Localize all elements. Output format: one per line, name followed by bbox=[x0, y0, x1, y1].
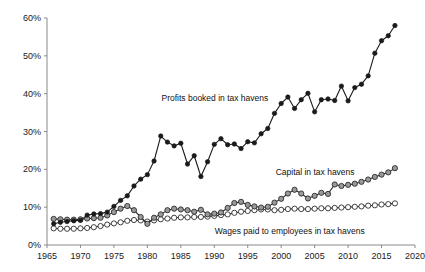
y-axis-tick-label: 30% bbox=[2, 127, 41, 137]
data-point bbox=[165, 216, 170, 221]
data-point bbox=[245, 208, 250, 213]
data-point bbox=[225, 212, 230, 217]
data-point bbox=[325, 191, 330, 196]
data-point bbox=[272, 200, 277, 205]
data-point bbox=[272, 111, 276, 115]
data-point bbox=[78, 218, 82, 222]
data-point bbox=[185, 208, 190, 213]
y-axis-tick-label: 60% bbox=[2, 13, 41, 23]
data-point bbox=[292, 206, 297, 211]
data-point bbox=[312, 206, 317, 211]
y-axis-tick-label: 40% bbox=[2, 89, 41, 99]
data-point bbox=[105, 222, 110, 227]
data-point bbox=[285, 191, 290, 196]
data-point bbox=[98, 223, 103, 228]
data-point bbox=[232, 142, 236, 146]
data-point bbox=[345, 205, 350, 210]
data-point bbox=[152, 159, 156, 163]
data-point bbox=[339, 84, 343, 88]
data-point bbox=[198, 214, 203, 219]
y-axis-tick-label: 10% bbox=[2, 202, 41, 212]
data-point bbox=[58, 226, 63, 231]
data-point bbox=[205, 160, 209, 164]
y-axis-tick-label: 0% bbox=[2, 240, 41, 250]
data-point bbox=[326, 97, 330, 101]
data-point bbox=[279, 196, 284, 201]
data-point bbox=[352, 181, 357, 186]
data-point bbox=[266, 126, 270, 130]
data-point bbox=[172, 144, 176, 148]
data-point bbox=[192, 154, 196, 158]
data-point bbox=[185, 215, 190, 220]
data-point bbox=[219, 136, 223, 140]
data-point bbox=[205, 212, 210, 217]
data-point bbox=[386, 34, 390, 38]
data-point bbox=[252, 204, 257, 209]
data-point bbox=[279, 207, 284, 212]
x-axis-tick-label: 1985 bbox=[171, 251, 191, 261]
data-point bbox=[58, 220, 62, 224]
data-point bbox=[192, 214, 197, 219]
data-point bbox=[232, 200, 237, 205]
data-point bbox=[345, 182, 350, 187]
data-point bbox=[265, 204, 270, 209]
data-point bbox=[359, 204, 364, 209]
data-point bbox=[245, 202, 250, 207]
data-point bbox=[392, 166, 397, 171]
data-point bbox=[325, 206, 330, 211]
data-point bbox=[366, 74, 370, 78]
x-axis-tick-label: 2000 bbox=[271, 251, 291, 261]
data-point bbox=[111, 221, 116, 226]
data-point bbox=[51, 222, 55, 226]
annotation-profits: Profits booked in tax havens bbox=[161, 93, 268, 103]
data-point bbox=[332, 182, 337, 187]
data-point bbox=[198, 207, 203, 212]
data-point bbox=[332, 205, 337, 210]
data-point bbox=[178, 215, 183, 220]
x-axis-tick-label: 1970 bbox=[70, 251, 90, 261]
data-point bbox=[299, 191, 304, 196]
data-point bbox=[292, 106, 296, 110]
x-axis-tick-label: 1975 bbox=[104, 251, 124, 261]
data-point bbox=[159, 134, 163, 138]
x-axis-tick-label: 1980 bbox=[137, 251, 157, 261]
data-point bbox=[125, 194, 129, 198]
data-point bbox=[65, 219, 69, 223]
annotation-capital: Capital in tax havens bbox=[276, 167, 355, 177]
data-point bbox=[312, 193, 317, 198]
data-point bbox=[232, 210, 237, 215]
data-point bbox=[64, 226, 69, 231]
x-axis-tick-label: 1990 bbox=[204, 251, 224, 261]
data-point bbox=[238, 199, 243, 204]
data-point bbox=[319, 206, 324, 211]
data-point bbox=[199, 174, 203, 178]
data-point bbox=[238, 209, 243, 214]
data-point bbox=[339, 205, 344, 210]
data-point bbox=[252, 141, 256, 145]
data-point bbox=[91, 225, 96, 230]
data-point bbox=[145, 221, 150, 226]
data-point bbox=[212, 211, 217, 216]
data-point bbox=[225, 205, 230, 210]
data-point bbox=[179, 141, 183, 145]
x-axis-tick-label: 1965 bbox=[37, 251, 57, 261]
y-axis-tick-label: 20% bbox=[2, 164, 41, 174]
data-point bbox=[85, 213, 89, 217]
data-point bbox=[165, 208, 170, 213]
data-point bbox=[145, 172, 149, 176]
data-point bbox=[51, 216, 56, 221]
data-point bbox=[319, 190, 324, 195]
data-point bbox=[352, 204, 357, 209]
data-point bbox=[379, 172, 384, 177]
data-point bbox=[246, 140, 250, 144]
data-point bbox=[306, 91, 310, 95]
data-point bbox=[372, 174, 377, 179]
data-point bbox=[172, 206, 177, 211]
data-point bbox=[138, 177, 142, 181]
data-point bbox=[118, 206, 123, 211]
data-point bbox=[239, 146, 243, 150]
data-point bbox=[279, 101, 283, 105]
data-point bbox=[299, 98, 303, 102]
y-axis-tick-label: 50% bbox=[2, 51, 41, 61]
